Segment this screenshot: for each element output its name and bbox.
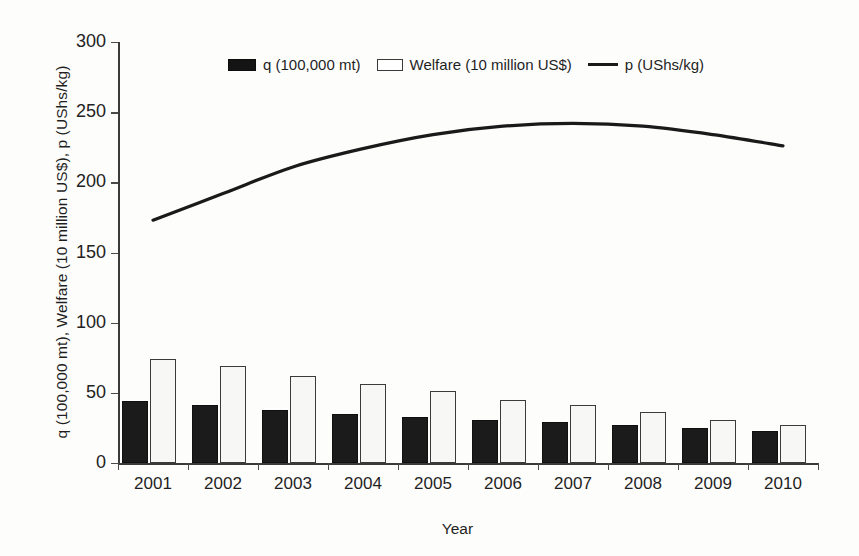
x-tick-mark bbox=[538, 463, 539, 470]
x-tick-label-2007: 2007 bbox=[538, 474, 608, 494]
y-tick-mark bbox=[111, 393, 118, 394]
bar-welfare-2003 bbox=[290, 376, 316, 463]
bar-welfare-2001 bbox=[150, 359, 176, 463]
y-tick-mark bbox=[111, 323, 118, 324]
x-tick-label-2009: 2009 bbox=[678, 474, 748, 494]
x-tick-mark bbox=[188, 463, 189, 470]
y-axis-spine bbox=[118, 42, 120, 463]
bar-q-2009 bbox=[682, 428, 708, 463]
bar-q-2004 bbox=[332, 414, 358, 463]
y-tick-mark bbox=[111, 253, 118, 254]
x-axis-title-text: Year bbox=[442, 520, 473, 537]
y-tick-label: 200 bbox=[76, 171, 106, 191]
y-tick-label: 150 bbox=[76, 242, 106, 262]
bar-welfare-2007 bbox=[570, 405, 596, 463]
plot-area: 050100150200250300 200120022003200420052… bbox=[118, 42, 818, 463]
bar-q-2010 bbox=[752, 431, 778, 463]
bar-welfare-2006 bbox=[500, 400, 526, 463]
bar-welfare-2010 bbox=[780, 425, 806, 463]
y-tick-label: 50 bbox=[86, 382, 106, 402]
bar-q-2005 bbox=[402, 417, 428, 463]
x-tick-mark bbox=[258, 463, 259, 470]
x-tick-mark bbox=[608, 463, 609, 470]
y-tick-mark bbox=[111, 182, 118, 183]
y-tick-label: 0 bbox=[96, 452, 106, 472]
x-tick-label-2010: 2010 bbox=[748, 474, 818, 494]
x-tick-label-2002: 2002 bbox=[188, 474, 258, 494]
bar-welfare-2005 bbox=[430, 391, 456, 463]
x-tick-mark bbox=[678, 463, 679, 470]
bar-q-2008 bbox=[612, 425, 638, 463]
x-axis-title: Year bbox=[0, 520, 859, 538]
x-tick-label-2001: 2001 bbox=[118, 474, 188, 494]
y-tick-mark bbox=[111, 463, 118, 464]
bar-welfare-2004 bbox=[360, 384, 386, 463]
x-tick-mark bbox=[818, 463, 819, 470]
x-tick-mark bbox=[398, 463, 399, 470]
x-tick-mark bbox=[748, 463, 749, 470]
bar-q-2003 bbox=[262, 410, 288, 463]
y-axis-title: q (100,000 mt), Welfare (10 million US$)… bbox=[53, 22, 71, 482]
y-tick-label: 100 bbox=[76, 312, 106, 332]
bar-q-2007 bbox=[542, 422, 568, 463]
bar-welfare-2002 bbox=[220, 366, 246, 463]
bar-q-2001 bbox=[122, 401, 148, 463]
bar-q-2002 bbox=[192, 405, 218, 463]
x-tick-mark bbox=[468, 463, 469, 470]
x-tick-label-2008: 2008 bbox=[608, 474, 678, 494]
bar-welfare-2008 bbox=[640, 412, 666, 463]
x-tick-label-2006: 2006 bbox=[468, 474, 538, 494]
x-tick-mark bbox=[118, 463, 119, 470]
x-tick-mark bbox=[328, 463, 329, 470]
bar-q-2006 bbox=[472, 420, 498, 464]
price-line-path bbox=[153, 123, 783, 220]
bar-welfare-2009 bbox=[710, 420, 736, 464]
x-tick-label-2004: 2004 bbox=[328, 474, 398, 494]
chart-figure: q (100,000 mt), Welfare (10 million US$)… bbox=[0, 0, 859, 556]
y-tick-mark bbox=[111, 42, 118, 43]
y-tick-label: 250 bbox=[76, 101, 106, 121]
y-tick-label: 300 bbox=[76, 31, 106, 51]
x-tick-label-2003: 2003 bbox=[258, 474, 328, 494]
x-tick-label-2005: 2005 bbox=[398, 474, 468, 494]
y-tick-mark bbox=[111, 112, 118, 113]
